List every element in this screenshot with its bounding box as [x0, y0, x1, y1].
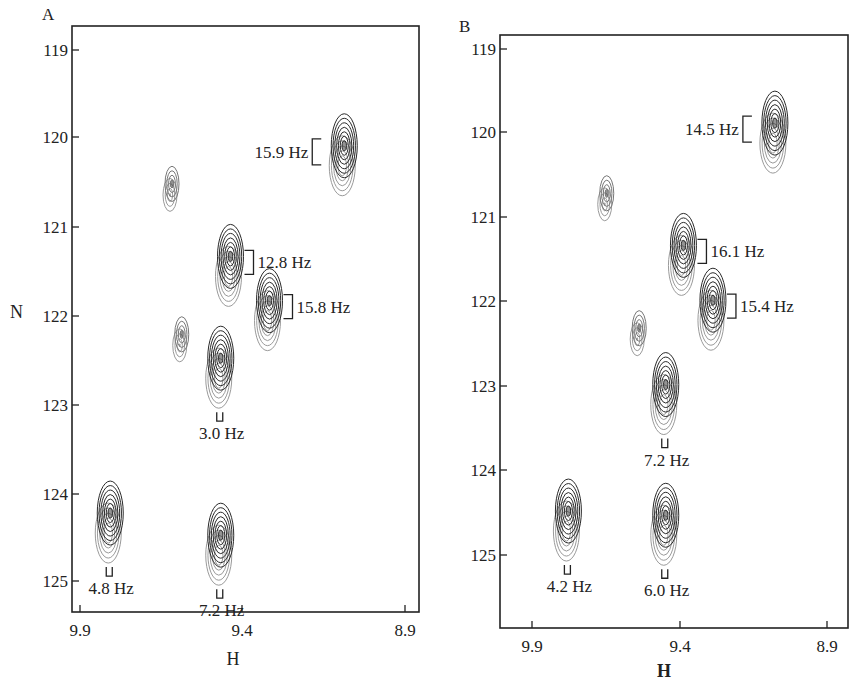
x-tick-label: 8.9: [816, 637, 837, 656]
y-tick-label: 119: [471, 40, 496, 59]
x-tick-label: 8.9: [394, 621, 415, 640]
x-tick-label: 9.9: [521, 637, 542, 656]
panel-letter: B: [459, 17, 470, 36]
panel-a: A1191201211221231241259.99.48.9HN15.9 Hz…: [10, 5, 419, 669]
y-tick-label: 121: [43, 218, 69, 237]
peak-contour: [173, 317, 189, 362]
y-tick-label: 120: [471, 123, 497, 142]
y-tick-label: 120: [43, 128, 69, 147]
coupling-label: 14.5 Hz: [685, 120, 739, 139]
peak-contour: [329, 114, 357, 196]
peak-contour: [668, 213, 696, 295]
peak-contour: [630, 311, 646, 356]
peak-contour: [553, 479, 581, 561]
y-tick-label: 125: [43, 572, 69, 591]
x-tick-label: 9.4: [231, 621, 253, 640]
peak-contour: [760, 91, 788, 173]
y-tick-label: 123: [43, 396, 69, 415]
panel-letter: A: [42, 5, 55, 24]
x-tick-label: 9.4: [669, 637, 691, 656]
coupling-label: 7.2 Hz: [199, 601, 245, 620]
coupling-label: 6.0 Hz: [644, 581, 690, 600]
y-tick-label: 124: [471, 461, 497, 480]
y-tick-label: 125: [471, 546, 497, 565]
coupling-label: 16.1 Hz: [710, 242, 764, 261]
peak-contour: [651, 483, 679, 565]
coupling-label: 3.0 Hz: [199, 424, 245, 443]
x-axis-label: H: [227, 649, 240, 669]
panel-b: B1191201211221231241259.99.48.9H14.5 Hz1…: [459, 17, 848, 681]
peak-contour: [598, 176, 614, 221]
peak-contour: [206, 503, 234, 585]
y-axis-label: N: [10, 302, 23, 322]
peak-contour: [163, 166, 179, 211]
coupling-label: 4.8 Hz: [89, 579, 135, 598]
coupling-label: 15.4 Hz: [740, 297, 794, 316]
peak-contour: [216, 224, 244, 306]
y-tick-label: 123: [471, 377, 497, 396]
peak-contour: [698, 268, 726, 350]
peak-contour: [95, 481, 123, 563]
plot-frame: [72, 26, 419, 612]
peak-contour: [255, 269, 283, 351]
y-tick-label: 124: [43, 485, 69, 504]
x-axis-label: H: [657, 661, 671, 681]
y-tick-label: 122: [43, 307, 69, 326]
coupling-label: 4.2 Hz: [547, 577, 593, 596]
coupling-label: 15.8 Hz: [297, 298, 351, 317]
peak-contour: [651, 353, 679, 435]
coupling-label: 7.2 Hz: [644, 451, 690, 470]
x-tick-label: 9.9: [69, 621, 90, 640]
y-tick-label: 122: [471, 292, 497, 311]
peak-contour: [206, 326, 234, 408]
y-tick-label: 121: [471, 208, 497, 227]
nmr-spectra-figure: A1191201211221231241259.99.48.9HN15.9 Hz…: [0, 0, 857, 689]
y-tick-label: 119: [43, 41, 68, 60]
coupling-label: 15.9 Hz: [254, 143, 308, 162]
